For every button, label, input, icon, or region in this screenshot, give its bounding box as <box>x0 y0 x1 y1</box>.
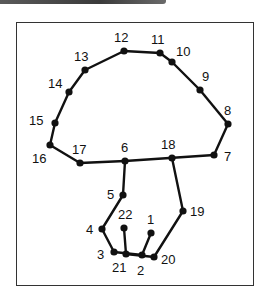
dot-16 <box>46 141 53 148</box>
dot-label-20: 20 <box>161 252 175 267</box>
dot-6 <box>121 157 128 164</box>
dot-11 <box>156 49 163 56</box>
dot-label-13: 13 <box>74 49 88 64</box>
segment-21-22 <box>124 228 126 254</box>
segment-9-10 <box>172 62 200 90</box>
dot-label-12: 12 <box>114 30 128 45</box>
dot-10 <box>168 58 175 65</box>
dot-label-7: 7 <box>224 149 231 164</box>
dot-label-2: 2 <box>137 263 144 278</box>
dot-label-18: 18 <box>161 137 175 152</box>
connect-the-dots-drawing: 12345678910111213141516171819202122 <box>0 0 263 294</box>
dot-label-1: 1 <box>147 212 154 227</box>
dot-20 <box>150 253 157 260</box>
dot-label-10: 10 <box>176 44 190 59</box>
dot-5 <box>119 191 126 198</box>
dot-19 <box>179 207 186 214</box>
dot-18 <box>168 154 175 161</box>
segment-18-19 <box>172 158 183 211</box>
dot-label-21: 21 <box>112 260 126 275</box>
dot-label-3: 3 <box>97 247 104 262</box>
segment-5-6 <box>123 161 125 195</box>
dot-label-9: 9 <box>202 69 209 84</box>
dot-17 <box>76 159 83 166</box>
dot-label-15: 15 <box>29 113 43 128</box>
segment-11-12 <box>124 51 160 53</box>
dot-2 <box>138 251 145 258</box>
dot-22 <box>120 224 127 231</box>
dot-4 <box>98 225 105 232</box>
segment-17-6 <box>80 161 125 163</box>
dot-13 <box>81 66 88 73</box>
dot-label-17: 17 <box>72 142 86 157</box>
dot-label-22: 22 <box>118 207 132 222</box>
dot-label-16: 16 <box>32 151 46 166</box>
dot-label-8: 8 <box>224 103 231 118</box>
segment-19-20 <box>154 211 183 257</box>
dot-label-19: 19 <box>190 204 204 219</box>
dot-label-14: 14 <box>48 76 62 91</box>
dot-14 <box>65 88 72 95</box>
dot-12 <box>120 47 127 54</box>
dot-label-5: 5 <box>107 187 114 202</box>
segment-14-15 <box>55 92 69 123</box>
segment-12-13 <box>85 51 124 70</box>
number-labels: 12345678910111213141516171819202122 <box>29 30 231 278</box>
segment-13-14 <box>69 70 85 92</box>
dot-9 <box>196 86 203 93</box>
dot-1 <box>147 229 154 236</box>
dot-7 <box>210 151 217 158</box>
dot-3 <box>110 248 117 255</box>
dot-label-6: 6 <box>121 140 128 155</box>
dot-label-11: 11 <box>151 32 165 47</box>
dot-label-4: 4 <box>86 222 93 237</box>
dot-15 <box>51 119 58 126</box>
dot-8 <box>224 120 231 127</box>
dot-21 <box>122 250 129 257</box>
